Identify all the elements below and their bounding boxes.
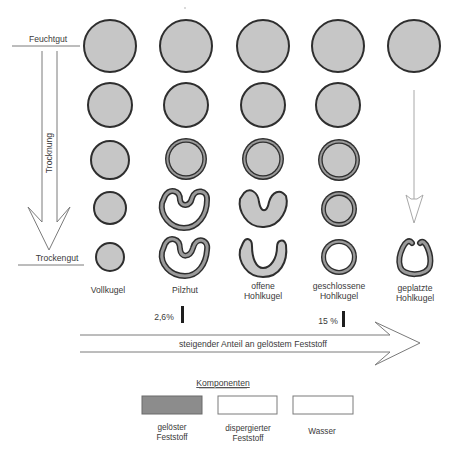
- process-label-trocknung: Trocknung: [44, 133, 54, 174]
- droplet-thick-shell-stage-4: [321, 191, 357, 227]
- column-vollkugel: Vollkugel: [84, 20, 136, 295]
- column-label-geplatzte-line1: geplatzte: [398, 283, 433, 293]
- legend-title: Komponenten: [196, 378, 250, 388]
- legend-swatch: [218, 396, 277, 414]
- droplet-stage-1: [312, 20, 364, 72]
- legend-label-line1: dispergierter: [225, 424, 271, 433]
- offene-shape-stage-4: [240, 190, 287, 227]
- legend-item-geloester-feststoff: gelöster Feststoff: [142, 396, 202, 442]
- column-label-geschlossene-line2: Hohlkugel: [320, 291, 358, 301]
- threshold-bar: [181, 306, 184, 323]
- legend-label-line1: gelöster: [157, 423, 186, 432]
- droplet-stage-4: [94, 192, 126, 224]
- drying-morphology-diagram: Feuchtgut Trocknung Trockengut Vollkugel: [0, 0, 451, 452]
- solids-content-axis: steigender Anteil an gelöstem Feststoff: [80, 322, 420, 365]
- pilzhut-shape-stage-4: [162, 191, 207, 228]
- droplet-with-shell-stage-3: [318, 139, 360, 181]
- particle-vollkugel: [96, 243, 124, 271]
- particle-offene-hohlkugel: [240, 239, 287, 277]
- stage-label-trockengut: Trockengut: [36, 253, 79, 263]
- column-pilzhut: Pilzhut: [160, 20, 212, 295]
- particle-pilzhut: [162, 239, 207, 276]
- droplet-stage-1: [160, 20, 212, 72]
- droplet-stage-2: [164, 83, 208, 127]
- drying-axis: Feuchtgut Trocknung Trockengut: [12, 34, 84, 265]
- diagram-canvas: Feuchtgut Trocknung Trockengut Vollkugel: [0, 0, 451, 452]
- particle-geschlossene-hohlkugel: [321, 239, 357, 275]
- axis-label: steigender Anteil an gelöstem Feststoff: [179, 339, 328, 349]
- threshold-bar: [342, 311, 345, 327]
- droplet-stage-1: [84, 20, 136, 72]
- droplet-stage-2: [316, 83, 360, 127]
- column-label-geplatzte-line2: Hohlkugel: [396, 293, 434, 303]
- droplet-with-shell-stage-3: [165, 138, 207, 180]
- stage-label-feuchtgut: Feuchtgut: [29, 34, 68, 44]
- droplet-stage-1: [388, 20, 440, 72]
- legend-label-line2: Feststoff: [232, 434, 264, 443]
- legend-label-line1: Wasser: [308, 427, 336, 436]
- column-label-pilzhut: Pilzhut: [172, 285, 198, 295]
- legend-swatch: [293, 396, 353, 414]
- stray-dot: [184, 7, 186, 9]
- column-label-geschlossene-line1: geschlossene: [313, 281, 366, 291]
- column-label-offene-line2: Hohlkugel: [244, 291, 282, 301]
- threshold-marker-1: 2,6%: [154, 306, 184, 323]
- legend-item-wasser: Wasser: [293, 396, 353, 436]
- droplet-stage-2: [241, 83, 285, 127]
- droplet-stage-3: [91, 141, 129, 179]
- legend-label-line2: Feststoff: [156, 433, 188, 442]
- arrow-down-icon: [406, 195, 423, 223]
- threshold-label: 2,6%: [154, 312, 174, 322]
- legend-swatch: [142, 396, 202, 414]
- threshold-label: 15 %: [318, 316, 338, 326]
- droplet-stage-1: [237, 20, 289, 72]
- column-offene-hohlkugel: offene Hohlkugel: [237, 20, 289, 301]
- threshold-marker-2: 15 %: [318, 311, 345, 327]
- droplet-stage-2: [88, 83, 132, 127]
- column-geschlossene-hohlkugel: geschlossene Hohlkugel: [312, 20, 365, 301]
- column-label-vollkugel: Vollkugel: [91, 285, 125, 295]
- particle-geplatzte-hohlkugel: [399, 241, 430, 274]
- legend: Komponenten gelöster Feststoff dispergie…: [142, 378, 353, 443]
- column-label-offene-line1: offene: [251, 281, 275, 291]
- column-geplatzte-hohlkugel: geplatzte Hohlkugel: [388, 20, 440, 303]
- droplet-with-shell-stage-3: [242, 138, 284, 180]
- legend-item-dispergierter-feststoff: dispergierter Feststoff: [218, 396, 277, 443]
